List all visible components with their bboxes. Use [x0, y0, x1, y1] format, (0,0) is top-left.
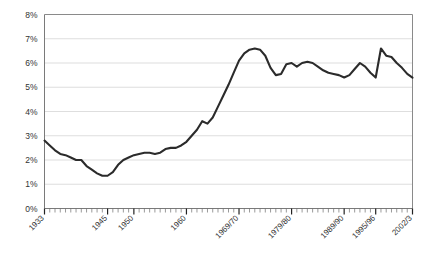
line-chart: 0%1%2%3%4%5%6%7%8% 19331945195019601969/… [0, 0, 432, 254]
y-tick-label-6%: 6% [25, 58, 38, 68]
y-tick-label-0%: 0% [25, 204, 38, 214]
x-tick-label-1950: 1950 [116, 213, 135, 232]
data-series-line [45, 48, 413, 175]
x-tick-label-1960: 1960 [169, 213, 188, 232]
y-tick-label-7%: 7% [25, 34, 38, 44]
gridlines-group [45, 39, 413, 185]
y-tick-label-3%: 3% [25, 131, 38, 141]
y-tick-label-5%: 5% [25, 82, 38, 92]
y-tick-label-4%: 4% [25, 107, 38, 117]
x-tick-label-1979-80: 1979/80 [266, 213, 293, 240]
y-tick-label-1%: 1% [25, 179, 38, 189]
chart-canvas: 0%1%2%3%4%5%6%7%8% 19331945195019601969/… [0, 0, 432, 254]
x-tick-label-2002-3: 2002/3 [390, 213, 414, 237]
x-tick-label-1995-96: 1995/96 [350, 213, 377, 240]
x-axis-ticks [45, 209, 413, 215]
x-axis-tick-labels: 19331945195019601969/701979/801989/90199… [27, 213, 414, 240]
y-axis-tick-labels: 0%1%2%3%4%5%6%7%8% [25, 10, 38, 214]
y-tick-label-2%: 2% [25, 155, 38, 165]
x-tick-label-1969-70: 1969/70 [214, 213, 241, 240]
x-tick-label-1989-90: 1989/90 [319, 213, 346, 240]
x-tick-label-1945: 1945 [90, 213, 109, 232]
x-tick-label-1933: 1933 [27, 213, 46, 232]
y-tick-label-8%: 8% [25, 10, 38, 20]
